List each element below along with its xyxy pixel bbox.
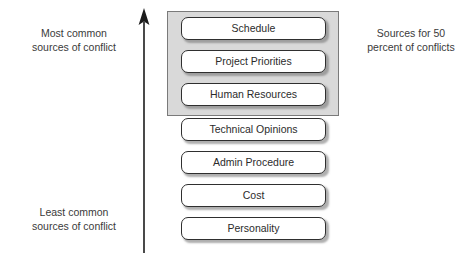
conflict-source-item[interactable]: Schedule [181, 17, 326, 40]
conflict-source-item[interactable]: Human Resources [181, 83, 326, 106]
conflict-source-label: Cost [243, 190, 265, 201]
diagram-canvas: Most common sources of conflict Least co… [0, 0, 473, 267]
conflict-source-item[interactable]: Admin Procedure [181, 151, 326, 174]
conflict-source-item[interactable]: Cost [181, 184, 326, 207]
conflict-source-item[interactable]: Personality [181, 217, 326, 240]
axis-bottom-label: Least common sources of conflict [8, 206, 140, 233]
conflict-source-label: Human Resources [210, 89, 297, 100]
axis-top-label: Most common sources of conflict [8, 27, 140, 54]
conflict-source-list: Schedule Project Priorities Human Resour… [181, 17, 326, 240]
conflict-source-label: Admin Procedure [213, 157, 294, 168]
conflict-source-label: Personality [228, 223, 280, 234]
conflict-source-label: Schedule [232, 23, 276, 34]
up-arrow-icon [136, 8, 152, 253]
conflict-source-label: Technical Opinions [209, 124, 297, 135]
conflict-source-label: Project Priorities [215, 56, 291, 67]
conflict-source-item[interactable]: Project Priorities [181, 50, 326, 73]
highlight-note: Sources for 50 percent of conflicts [352, 27, 470, 54]
conflict-source-item[interactable]: Technical Opinions [181, 118, 326, 141]
